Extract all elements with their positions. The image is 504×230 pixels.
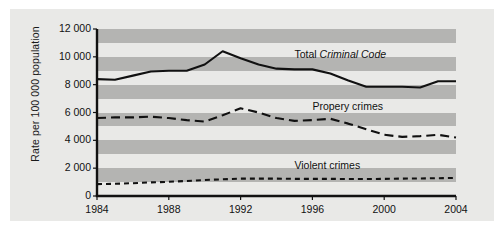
x-tick-label: 2000 (373, 203, 396, 215)
x-tick-label: 1988 (157, 203, 180, 215)
y-tick-label: 2 000 (45, 161, 91, 173)
series-annotation-1: Propery crimes (312, 100, 383, 112)
series-annotation-2: Violent crimes (294, 159, 360, 171)
y-tick-label: 4 000 (45, 133, 91, 145)
y-tick-label: 8 000 (45, 78, 91, 90)
y-tick-label: 12 000 (45, 22, 91, 34)
x-tick-label: 1984 (85, 203, 108, 215)
series-line-1 (97, 108, 456, 137)
chart-figure: Rate per 100 000 population 02 0004 0006… (0, 0, 504, 230)
y-tick-label: 0 (45, 189, 91, 201)
x-tick-label: 1992 (229, 203, 252, 215)
y-tick-label: 6 000 (45, 106, 91, 118)
plot-area: Total Criminal CodePropery crimesViolent… (97, 29, 456, 196)
y-axis-tick-labels: 02 0004 0006 0008 00010 00012 000 (43, 29, 91, 196)
y-tick-label: 10 000 (45, 50, 91, 62)
series-annotation-0: Total Criminal Code (294, 48, 386, 60)
y-axis-title: Rate per 100 000 population (29, 4, 41, 184)
x-axis-tick-labels: 198419881992199620002004 (97, 200, 456, 218)
series-line-0 (97, 51, 456, 87)
series-line-2 (97, 178, 456, 184)
series-lines-layer (97, 29, 456, 196)
x-tick-label: 2004 (444, 203, 467, 215)
x-tick-label: 1996 (301, 203, 324, 215)
